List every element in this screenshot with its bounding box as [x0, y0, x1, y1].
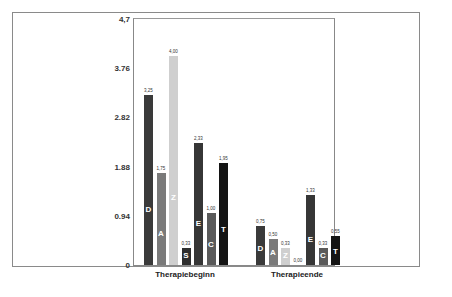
y-tick-label: 2.82: [114, 113, 130, 122]
plot-area: 3,25D1,75A4,00Z0,33S2,33E1,00C1,95T0,75D…: [133, 18, 335, 266]
bar-value-label: 1,95: [219, 156, 228, 161]
bar-letter: Z: [281, 251, 290, 260]
bar-value-label: 0,33: [281, 241, 290, 246]
bar-c-therapiebeginn: 1,00C: [207, 213, 216, 265]
bar-value-label: 3,25: [144, 88, 153, 93]
bar-d-therapiebeginn: 3,25D: [144, 95, 153, 265]
bar-letter: T: [331, 247, 340, 256]
bar-letter: Z: [169, 193, 178, 202]
x-category-label: Therapiebeginn: [155, 270, 215, 279]
bar-letter: D: [256, 244, 265, 253]
bar-a-therapieende: 0,50A: [269, 239, 278, 265]
bar-a-therapiebeginn: 1,75A: [157, 173, 166, 265]
bar-value-label: 0,75: [256, 219, 265, 224]
bar-d-therapieende: 0,75D: [256, 226, 265, 265]
bar-value-label: 2,33: [194, 136, 203, 141]
bar-letter: A: [157, 229, 166, 238]
bar-value-label: 1,33: [306, 188, 315, 193]
bar-z-therapieende: 0,33Z: [281, 248, 290, 265]
x-category-label: Therapieende: [271, 270, 323, 279]
bar-letter: C: [319, 251, 328, 260]
bar-t-therapiebeginn: 1,95T: [219, 163, 228, 265]
bar-letter: E: [194, 219, 203, 228]
bar-c-therapieende: 0,33C: [319, 248, 328, 265]
y-tick-label: 4,7: [119, 15, 130, 24]
y-tick-label: 3.76: [114, 64, 130, 73]
bar-s-therapiebeginn: 0,33S: [182, 248, 191, 265]
bar-value-label: 4,00: [169, 49, 178, 54]
bar-value-label: 0,33: [182, 241, 191, 246]
bar-value-label: 0,33: [319, 241, 328, 246]
bar-letter: T: [219, 225, 228, 234]
bar-letter: A: [269, 248, 278, 257]
bar-value-label: 1,00: [207, 206, 216, 211]
bar-value-label: 0,00: [294, 258, 303, 263]
y-tick-label: 0.94: [114, 211, 130, 220]
bar-letter: S: [182, 251, 191, 260]
y-tick-label: 0: [126, 261, 130, 270]
bar-e-therapiebeginn: 2,33E: [194, 143, 203, 265]
bar-letter: C: [207, 240, 216, 249]
bar-letter: D: [144, 205, 153, 214]
bar-value-label: 0,55: [331, 229, 340, 234]
bar-value-label: 1,75: [157, 166, 166, 171]
bar-letter: E: [306, 235, 315, 244]
bar-value-label: 0,50: [269, 232, 278, 237]
bar-e-therapieende: 1,33E: [306, 195, 315, 265]
bar-t-therapieende: 0,55T: [331, 236, 340, 265]
bar-z-therapiebeginn: 4,00Z: [169, 56, 178, 265]
y-tick-label: 1.88: [114, 162, 130, 171]
